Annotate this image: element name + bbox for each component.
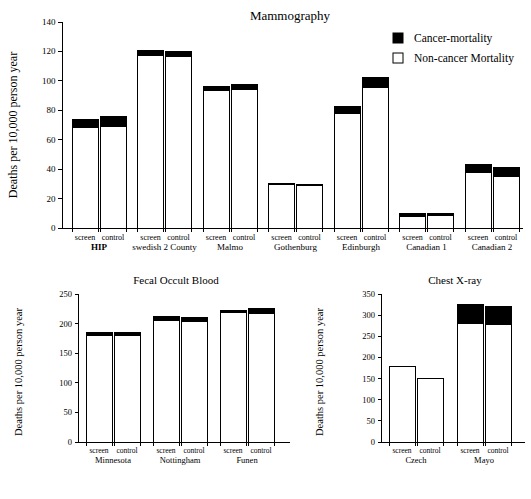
arm-label: screen [402,233,422,242]
bar-segment-noncancer [203,90,229,228]
arm-label: control [250,446,271,455]
group-label: Edinburgh [342,242,380,252]
group-label: Nottingham [160,455,201,465]
y-axis-label: Deaths per 10,000 person year [6,52,20,198]
bar-segment-cancer [457,305,483,324]
y-axis-tick-label: 80 [47,105,57,115]
arm-label: control [102,233,125,242]
bar-segment-cancer [114,332,140,335]
arm-label: control [429,233,452,242]
bar-segment-noncancer [138,56,164,228]
bar-segment-noncancer [400,217,426,228]
y-axis-tick-label: 40 [47,164,57,174]
bar-segment-noncancer [417,378,443,442]
arm-label: screen [271,233,291,242]
arm-label: screen [140,233,160,242]
bar-segment-cancer [231,85,257,90]
y-axis-tick-label: 60 [47,135,57,145]
bar-segment-noncancer [334,114,360,228]
arm-label: screen [337,233,357,242]
bar-segment-noncancer [485,324,511,442]
bar-segment-noncancer [297,185,323,228]
mammography-chart-panel: MammographyDeaths per 10,000 person year… [0,0,531,262]
group-label: swedish 2 County [132,242,197,252]
bar-segment-cancer [269,183,295,184]
chart-title: Mammography [250,8,331,23]
bar-segment-noncancer [166,57,192,228]
arm-label: control [183,446,204,455]
bar-segment-cancer [485,307,511,325]
arm-label: control [364,233,387,242]
bar-segment-cancer [362,78,388,88]
bar-segment-cancer [138,51,164,56]
y-axis-tick-label: 0 [371,437,375,447]
bar-segment-cancer [428,213,454,215]
bar-segment-noncancer [493,177,519,229]
y-axis-tick-label: 0 [51,223,56,233]
y-axis-tick-label: 50 [367,416,376,426]
bar-segment-cancer [153,316,179,320]
bar-segment-cancer [493,168,519,177]
group-label: Gothenburg [274,242,317,252]
bar-segment-cancer [86,332,112,335]
arm-label: screen [468,233,488,242]
y-axis-tick-label: 350 [362,289,375,299]
arm-label: screen [206,233,226,242]
arm-label: control [419,446,440,455]
bar-segment-noncancer [220,313,246,442]
arm-label: control [298,233,321,242]
bar-segment-noncancer [428,215,454,228]
fecal-occult-blood-chart-panel: Fecal Occult BloodDeaths per 10,000 pers… [0,262,300,499]
bar-segment-cancer [220,311,246,313]
bar-segment-noncancer [72,128,98,228]
bar-segment-cancer [465,165,491,172]
group-label: Malmo [217,242,243,252]
y-axis-tick-label: 150 [362,374,375,384]
arm-label: control [167,233,190,242]
y-axis-tick-label: 150 [59,348,72,358]
y-axis-tick-label: 250 [362,331,375,341]
bar-segment-noncancer [231,90,257,228]
arm-label: screen [392,446,411,455]
mammography-chart: MammographyDeaths per 10,000 person year… [0,0,531,262]
arm-label: screen [223,446,242,455]
group-label: Canadian 1 [406,242,447,252]
bar-segment-noncancer [362,87,388,228]
y-axis-label: Deaths per 10,000 person year [13,307,24,436]
bar-segment-cancer [400,213,426,217]
y-axis-tick-label: 250 [59,289,72,299]
y-axis-tick-label: 100 [362,395,375,405]
bar-segment-cancer [100,116,126,126]
group-label: HIP [91,242,108,252]
y-axis-tick-label: 0 [68,437,72,447]
fecal-occult-blood-chart: Fecal Occult BloodDeaths per 10,000 pers… [0,262,300,499]
bar-segment-cancer [248,309,274,314]
group-label: Canadian 2 [472,242,513,252]
group-label: Czech [405,455,427,465]
arm-label: screen [156,446,175,455]
y-axis-tick-label: 300 [362,310,375,320]
bar-segment-noncancer [465,172,491,228]
bar-segment-noncancer [181,321,207,442]
arm-label: control [233,233,256,242]
arm-label: screen [460,446,479,455]
legend-swatch-cancer-icon [393,33,403,43]
legend-label: Non-cancer Mortality [414,52,514,65]
bar-segment-noncancer [248,314,274,442]
bar-segment-noncancer [114,335,140,442]
bar-segment-cancer [72,120,98,128]
chart-title: Fecal Occult Blood [133,274,219,286]
group-label: Minnesota [95,455,131,465]
bar-segment-noncancer [86,335,112,442]
legend-label: Cancer-mortality [414,32,493,45]
bar-segment-noncancer [457,324,483,442]
bar-segment-cancer [334,107,360,114]
bar-segment-noncancer [100,126,126,228]
bar-segment-cancer [166,51,192,56]
group-label: Mayo [474,455,494,465]
bar-segment-noncancer [389,367,415,442]
chest-xray-chart-panel: Chest X-rayDeaths per 10,000 person year… [300,262,531,499]
arm-label: screen [75,233,95,242]
chart-title: Chest X-ray [428,274,482,286]
arm-label: control [487,446,508,455]
